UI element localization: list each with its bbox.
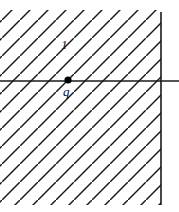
figure-svg (0, 0, 179, 212)
figure-canvas: 1 q (0, 0, 179, 212)
hatched-region (0, 10, 161, 205)
point-label-q: q (63, 85, 70, 98)
point-q-marker (64, 76, 71, 83)
region-label-one: 1 (61, 38, 68, 51)
hatch-fill (0, 10, 161, 205)
